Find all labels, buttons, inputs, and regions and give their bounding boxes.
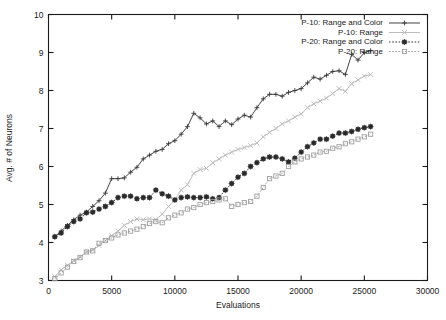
data-marker xyxy=(203,194,209,200)
data-marker xyxy=(153,187,159,193)
data-marker xyxy=(222,187,228,193)
chart-figure: 050001000015000200002500030000345678910 … xyxy=(0,0,446,320)
x-tick-label: 25000 xyxy=(353,286,377,296)
data-marker xyxy=(304,144,310,150)
data-marker xyxy=(248,164,254,170)
y-tick-label: 6 xyxy=(39,162,44,172)
data-marker xyxy=(273,154,279,160)
data-marker xyxy=(102,203,108,209)
data-marker xyxy=(166,193,172,199)
data-marker xyxy=(121,193,127,199)
legend-label: P-20: Range and Color xyxy=(301,37,383,46)
data-marker xyxy=(254,160,260,166)
x-tick-label: 15000 xyxy=(226,286,250,296)
data-marker xyxy=(147,195,153,201)
data-marker xyxy=(298,149,304,155)
data-marker xyxy=(83,210,89,216)
data-marker xyxy=(349,129,355,135)
data-marker xyxy=(368,124,374,130)
data-marker xyxy=(128,193,134,199)
data-marker xyxy=(134,196,140,202)
y-tick-label: 3 xyxy=(39,276,44,286)
x-tick-label: 5000 xyxy=(102,286,121,296)
data-marker xyxy=(184,194,190,200)
legend-label: P-20: Range xyxy=(338,47,383,56)
x-tick-label: 20000 xyxy=(289,286,313,296)
data-marker xyxy=(96,206,102,212)
data-marker xyxy=(159,191,165,197)
data-marker xyxy=(402,39,408,45)
data-marker xyxy=(178,195,184,201)
data-marker xyxy=(140,195,146,201)
data-marker xyxy=(197,195,203,201)
data-marker xyxy=(229,181,235,187)
line-chart: 050001000015000200002500030000345678910 … xyxy=(0,0,446,320)
data-marker xyxy=(77,216,83,222)
legend-label: P-10: Range xyxy=(338,28,383,37)
data-marker xyxy=(52,234,58,240)
data-marker xyxy=(279,156,285,162)
y-tick-label: 5 xyxy=(39,200,44,210)
x-tick-label: 0 xyxy=(46,286,51,296)
data-marker xyxy=(361,125,367,131)
data-marker xyxy=(191,195,197,201)
legend-label: P-10: Range and Color xyxy=(301,18,383,27)
data-marker xyxy=(115,195,121,201)
x-axis-title: Evaluations xyxy=(216,300,260,310)
y-tick-label: 10 xyxy=(34,10,44,20)
data-marker xyxy=(90,209,96,215)
data-marker xyxy=(330,133,336,139)
data-marker xyxy=(323,136,329,142)
data-marker xyxy=(71,219,77,225)
data-marker xyxy=(267,154,273,160)
x-tick-label: 10000 xyxy=(163,286,187,296)
y-tick-label: 8 xyxy=(39,86,44,96)
data-marker xyxy=(64,224,70,230)
data-marker xyxy=(58,230,64,236)
y-tick-label: 9 xyxy=(39,48,44,58)
data-marker xyxy=(355,126,361,132)
data-marker xyxy=(317,136,323,142)
data-marker xyxy=(172,197,178,203)
y-axis-title: Avg. # of Neurons xyxy=(4,114,14,182)
y-tick-label: 7 xyxy=(39,124,44,134)
data-marker xyxy=(235,174,241,180)
data-marker xyxy=(109,200,115,206)
x-tick-label: 30000 xyxy=(416,286,440,296)
y-tick-label: 4 xyxy=(39,238,44,248)
data-marker xyxy=(342,130,348,136)
data-marker xyxy=(336,130,342,136)
data-marker xyxy=(311,140,317,146)
data-marker xyxy=(260,156,266,162)
data-marker xyxy=(241,170,247,176)
